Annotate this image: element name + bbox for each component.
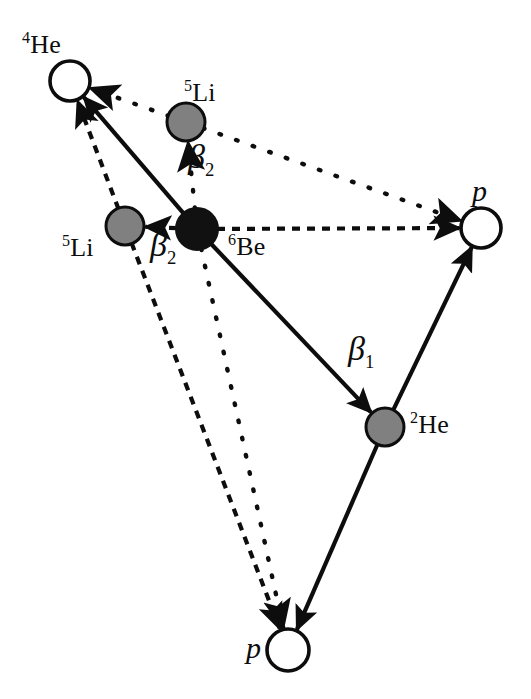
beta-label-beta2_left: β2 (150, 228, 176, 268)
decay-diagram-canvas (0, 0, 531, 699)
edge-li5-left-to-he4-dashed (78, 101, 119, 209)
edge-li5-top-to-he4-dotted (90, 88, 169, 116)
node-li5_left[interactable] (106, 207, 144, 245)
beta-label-beta2_top: β2 (188, 140, 214, 180)
node-label-be6: 6Be (228, 232, 266, 260)
edge-layer (78, 88, 472, 629)
node-label-p_bottom: p (246, 633, 261, 663)
node-label-li5_left: 5Li (62, 233, 94, 261)
node-label-he2: 2He (410, 410, 449, 438)
edge-li5-left-to-p-bottom-dashed (131, 243, 279, 629)
edge-li5-top-to-p-right-dotted (203, 128, 461, 221)
node-he2[interactable] (366, 408, 404, 446)
node-label-he4: 4He (22, 30, 61, 58)
node-p_bottom[interactable] (267, 629, 309, 671)
beta-label-beta1: β1 (348, 332, 374, 372)
edge-be6-to-p-right-dashed (217, 228, 460, 229)
node-li5_top[interactable] (167, 103, 205, 141)
edge-be6-to-he2 (211, 244, 371, 413)
node-he4[interactable] (50, 61, 90, 101)
decay-diagram: 4He5Li5Li6Bep2Hepβ2β2β1 (0, 0, 531, 699)
edge-he2-to-p-bottom (297, 444, 378, 630)
node-label-p_right: p (472, 176, 487, 206)
edge-he2-to-p-right (393, 247, 472, 410)
node-be6[interactable] (176, 208, 218, 250)
node-p_right[interactable] (461, 208, 501, 248)
node-label-li5_top: 5Li (184, 78, 216, 106)
node-layer (50, 61, 501, 671)
